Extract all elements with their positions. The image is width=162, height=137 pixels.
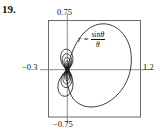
- equation-numerator: sinθ: [91, 31, 105, 39]
- axis-label-right: 1.2: [143, 62, 154, 72]
- figure-container: 19.: [0, 0, 162, 137]
- equation-lhs: r: [78, 36, 81, 44]
- axis-label-bottom: −0.75: [53, 119, 73, 129]
- axis-label-left: −0.3: [22, 62, 37, 72]
- equation-fraction: sinθ θ: [91, 31, 105, 48]
- equation-annotation: r = sinθ θ: [78, 31, 105, 48]
- equation-relation: =: [83, 36, 90, 44]
- numerator-theta-symbol: θ: [100, 30, 104, 39]
- axis-label-top: 0.75: [57, 7, 72, 17]
- equation-denominator: θ: [95, 40, 101, 48]
